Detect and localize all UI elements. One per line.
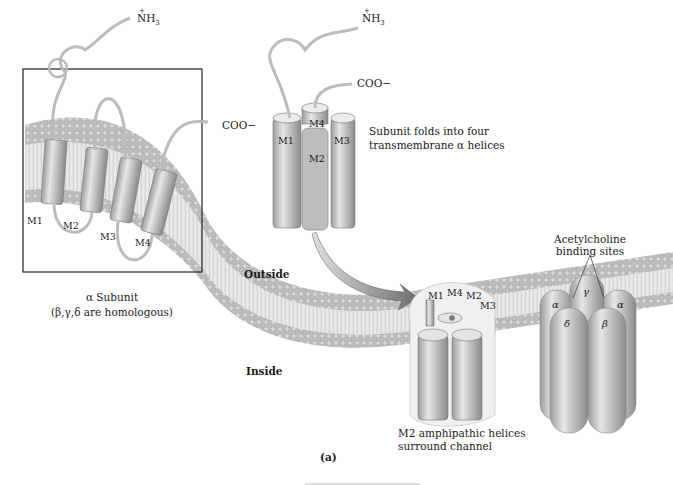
alpha-left-subunit-label: α — [552, 299, 559, 310]
panel-label: (a) — [320, 451, 337, 464]
alpha-right-subunit-label: α — [617, 299, 624, 310]
subunit-caption-line1: α Subunit — [62, 291, 162, 304]
subunit-caption-line2: (β,γ,δ are homologous) — [32, 306, 192, 319]
folded-n-terminus-label: + NH3 — [362, 12, 385, 30]
box-helix-m2-label: M2 — [63, 219, 79, 232]
box-c-terminus-label: COO− — [222, 119, 256, 132]
beta-subunit-label: β — [602, 318, 608, 329]
channel-caption-line1: M2 amphipathic helices — [398, 427, 526, 440]
folded-helix-m4-label: M4 — [309, 117, 325, 130]
folded-caption-line2: transmembrane α helices — [369, 139, 505, 152]
inside-label: Inside — [246, 365, 282, 378]
channel-m1-label: M1 — [428, 289, 444, 302]
box-n-terminus-label: + NH3 — [137, 12, 160, 30]
folded-helix-m3-label: M3 — [334, 134, 350, 147]
delta-subunit-label: δ — [564, 318, 570, 329]
outside-label: Outside — [244, 268, 290, 281]
folded-helix-m2-label: M2 — [309, 152, 325, 165]
channel-m3-label: M3 — [480, 299, 496, 312]
gamma-subunit-label: γ — [583, 286, 589, 297]
box-helix-m3-label: M3 — [100, 230, 116, 243]
binding-sites-label-line2: binding sites — [545, 245, 635, 258]
channel-caption-line2: surround channel — [398, 440, 492, 453]
folded-caption-line1: Subunit folds into four — [369, 125, 489, 138]
channel-m4-label: M4 — [447, 286, 463, 299]
folded-helix-m1-label: M1 — [278, 134, 294, 147]
box-helix-m4-label: M4 — [135, 236, 151, 249]
box-helix-m1-label: M1 — [27, 214, 43, 227]
folded-c-terminus-label: COO− — [357, 77, 391, 90]
